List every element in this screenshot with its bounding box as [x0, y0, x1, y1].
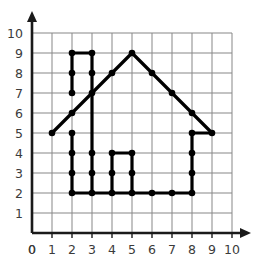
plotted-point	[109, 70, 116, 77]
plotted-point	[89, 170, 96, 177]
plotted-point	[129, 50, 136, 57]
plotted-point	[109, 170, 116, 177]
y-tick-label: 10	[7, 26, 23, 41]
coordinate-grid-figure: 012345678910123456789100	[0, 0, 256, 269]
plot-background	[0, 0, 256, 269]
x-tick-label: 8	[188, 242, 196, 257]
plotted-point	[69, 170, 76, 177]
plotted-point	[69, 110, 76, 117]
plotted-point	[69, 50, 76, 57]
plotted-point	[129, 190, 136, 197]
plotted-point	[89, 70, 96, 77]
x-tick-label: 10	[224, 242, 240, 257]
y-tick-label: 1	[15, 206, 23, 221]
x-tick-label: 2	[68, 242, 76, 257]
plotted-point	[129, 150, 136, 157]
plotted-point	[69, 150, 76, 157]
origin-label: 0	[28, 242, 36, 257]
x-tick-label: 5	[128, 242, 136, 257]
plotted-point	[69, 90, 76, 97]
plotted-point	[189, 190, 196, 197]
y-tick-label: 7	[15, 86, 23, 101]
plotted-point	[89, 50, 96, 57]
plotted-point	[89, 90, 96, 97]
house-on-grid-plot: 012345678910123456789100	[0, 0, 256, 269]
plotted-point	[169, 190, 176, 197]
plotted-point	[109, 190, 116, 197]
y-tick-label: 8	[15, 66, 23, 81]
x-tick-label: 6	[148, 242, 156, 257]
x-tick-label: 9	[208, 242, 216, 257]
plotted-point	[69, 190, 76, 197]
plotted-point	[109, 150, 116, 157]
plotted-point	[189, 130, 196, 137]
plotted-point	[169, 90, 176, 97]
plotted-point	[89, 150, 96, 157]
y-tick-label: 3	[15, 166, 23, 181]
plotted-point	[69, 70, 76, 77]
plotted-point	[149, 70, 156, 77]
x-tick-label: 3	[88, 242, 96, 257]
plotted-point	[49, 130, 56, 137]
x-tick-label: 7	[168, 242, 176, 257]
y-tick-label: 6	[15, 106, 23, 121]
y-tick-label: 2	[15, 186, 23, 201]
y-tick-label: 4	[15, 146, 23, 161]
plotted-point	[69, 130, 76, 137]
y-tick-label: 5	[15, 126, 23, 141]
plotted-point	[189, 150, 196, 157]
plotted-point	[89, 190, 96, 197]
plotted-point	[149, 190, 156, 197]
plotted-point	[129, 170, 136, 177]
plotted-point	[189, 110, 196, 117]
plotted-point	[209, 130, 216, 137]
plotted-point	[189, 170, 196, 177]
x-tick-label: 4	[108, 242, 116, 257]
x-tick-label: 1	[48, 242, 56, 257]
y-tick-label: 9	[15, 46, 23, 61]
